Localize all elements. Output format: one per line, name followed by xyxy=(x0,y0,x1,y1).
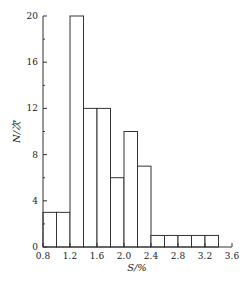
histogram-bar xyxy=(84,108,98,247)
x-tick-label: 2.8 xyxy=(171,251,186,261)
y-tick-label: 16 xyxy=(27,57,39,67)
x-axis-title: S/% xyxy=(127,262,147,273)
y-tick-label: 4 xyxy=(32,196,38,206)
x-tick-label: 0.8 xyxy=(36,251,51,261)
histogram-bar xyxy=(70,16,84,247)
histogram-chart: 0.81.21.62.02.42.83.23.6 048121620 S/% N… xyxy=(0,0,250,289)
histogram-bar xyxy=(57,212,71,247)
x-tick-label: 1.6 xyxy=(90,251,105,261)
y-tick-label: 12 xyxy=(27,103,38,113)
histogram-bars xyxy=(43,16,219,247)
y-tick-label: 0 xyxy=(32,242,38,252)
x-tick-label: 3.6 xyxy=(225,251,240,261)
histogram-bar xyxy=(205,235,219,247)
histogram-bar xyxy=(111,178,125,247)
histogram-bar xyxy=(165,235,179,247)
x-tick-label: 2.4 xyxy=(144,251,159,261)
histogram-bar xyxy=(151,235,165,247)
histogram-bar xyxy=(192,235,206,247)
histogram-bar xyxy=(97,108,111,247)
x-tick-label: 1.2 xyxy=(63,251,77,261)
y-tick-label: 20 xyxy=(27,11,39,21)
y-axis-title: N/次 xyxy=(11,120,22,144)
histogram-bar xyxy=(138,166,152,247)
histogram-bar xyxy=(43,212,57,247)
histogram-bar xyxy=(178,235,192,247)
y-tick-label: 8 xyxy=(32,150,38,160)
x-tick-label: 2.0 xyxy=(117,251,132,261)
x-tick-label: 3.2 xyxy=(198,251,212,261)
histogram-bar xyxy=(124,132,138,248)
